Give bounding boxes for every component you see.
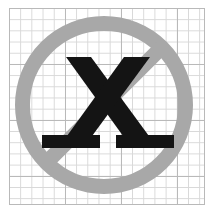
image-canvas xyxy=(0,0,212,216)
sign-layer xyxy=(0,0,212,216)
letter-x-glyph xyxy=(42,57,174,148)
